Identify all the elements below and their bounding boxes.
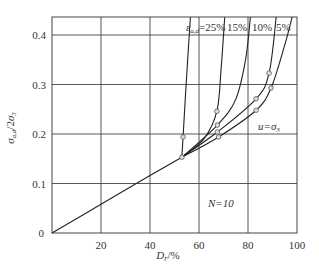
origin-label: 0 <box>39 227 45 239</box>
chart: 204060801000.10.20.30.40Dr/%σa,d/2σ3εa,d… <box>0 0 319 274</box>
data-marker <box>215 123 220 128</box>
series-label-u: u=σ3 <box>258 120 280 134</box>
x-tick-label: 80 <box>243 239 255 251</box>
x-axis-label: Dr/% <box>155 249 179 263</box>
labels: 204060801000.10.20.30.40Dr/%σa,d/2σ3εa,d… <box>4 21 306 263</box>
y-tick-label: 0.3 <box>32 79 46 91</box>
series-line <box>182 17 276 157</box>
x-tick-label: 100 <box>289 239 306 251</box>
data-marker <box>267 71 272 76</box>
data-marker <box>180 155 185 160</box>
annotation-n: N=10 <box>207 197 234 209</box>
y-tick-label: 0.2 <box>32 128 46 140</box>
series-line <box>52 157 182 233</box>
y-axis-label: σa,d/2σ3 <box>4 112 18 144</box>
data-marker <box>215 109 220 114</box>
strain-legend: εa,d=25% <box>186 21 225 35</box>
curves <box>52 17 292 233</box>
data-marker <box>254 108 259 113</box>
data-marker <box>215 130 220 135</box>
x-tick-label: 60 <box>194 239 206 251</box>
data-marker <box>254 97 259 102</box>
data-marker <box>269 86 274 91</box>
y-tick-label: 0.1 <box>32 178 46 190</box>
data-marker <box>216 135 221 140</box>
strain-label: 5% <box>276 21 291 33</box>
strain-label: 15% <box>227 21 247 33</box>
data-marker <box>181 135 186 140</box>
y-tick-label: 0.4 <box>32 29 46 41</box>
strain-label: 10% <box>252 21 272 33</box>
x-tick-label: 40 <box>145 239 157 251</box>
x-tick-label: 20 <box>96 239 108 251</box>
series-line <box>182 17 292 157</box>
